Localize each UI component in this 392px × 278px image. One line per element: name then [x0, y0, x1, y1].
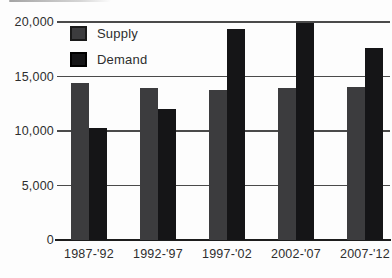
supply-bar: [209, 90, 227, 240]
x-tick-label: 1997-'02: [202, 247, 252, 262]
x-tick-label: 1987-'92: [64, 247, 114, 262]
y-tick-label: 5,000: [0, 178, 54, 194]
demand-swatch: [70, 52, 87, 67]
legend-label-demand: Demand: [97, 52, 147, 67]
legend-label-supply: Supply: [97, 26, 138, 41]
legend-item-demand: Demand: [70, 52, 147, 67]
legend: Supply Demand: [70, 26, 147, 67]
demand-bar: [296, 23, 314, 240]
supply-bar: [347, 87, 365, 240]
x-tick-label: 1992-'97: [133, 247, 183, 262]
y-tick-label: 20,000: [0, 14, 54, 30]
gridline: [57, 76, 390, 78]
supply-bar: [71, 83, 89, 240]
supply-bar: [140, 88, 158, 240]
x-tick-label: 2007-'12: [340, 247, 390, 262]
y-tick-label: 15,000: [0, 69, 54, 85]
y-tick-label: 10,000: [0, 123, 54, 139]
demand-bar: [227, 29, 245, 240]
supply-bar: [278, 88, 296, 240]
y-tick-label: 0: [0, 232, 54, 248]
legend-item-supply: Supply: [70, 26, 147, 41]
demand-bar: [158, 109, 176, 240]
demand-bar: [89, 128, 107, 240]
demand-bar: [365, 48, 383, 240]
scan-artifact-line: [9, 0, 111, 2]
supply-demand-bar-chart: Supply Demand 05,00010,00015,00020,00019…: [0, 0, 392, 278]
gridline: [57, 21, 390, 23]
x-tick-label: 2002-'07: [271, 247, 321, 262]
supply-swatch: [70, 26, 87, 41]
